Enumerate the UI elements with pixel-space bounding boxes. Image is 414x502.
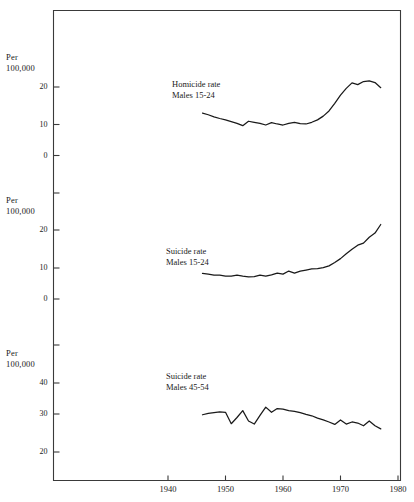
text-line: Suicide rate xyxy=(166,371,209,382)
series-annotation-suicide-males-15-24: Suicide rateMales 15-24 xyxy=(166,246,209,268)
text-line: Males 15-24 xyxy=(166,257,209,268)
y-tick-label: 30 xyxy=(24,409,48,418)
text-line: 100,000 xyxy=(6,63,35,74)
y-tick-label: 10 xyxy=(24,263,48,272)
x-tick-label: 1950 xyxy=(206,484,246,494)
y-tick-label: 0 xyxy=(24,151,48,160)
series-annotation-suicide-males-45-54: Suicide rateMales 45-54 xyxy=(166,371,209,393)
x-tick-label: 1970 xyxy=(321,484,361,494)
series-group xyxy=(203,81,381,429)
x-tick-label: 1940 xyxy=(148,484,188,494)
text-line: 100,000 xyxy=(6,359,35,370)
y-tick-label: 0 xyxy=(24,294,48,303)
text-line: 100,000 xyxy=(6,206,35,217)
axes-group xyxy=(54,11,401,481)
y-tick-label: 10 xyxy=(24,120,48,129)
figure-root: Per100,000 Per100,000 Per100,000 Homicid… xyxy=(0,0,414,502)
y-axis-unit-label-panel-1: Per100,000 xyxy=(6,52,35,73)
text-line: Males 45-54 xyxy=(166,382,209,393)
y-axis-unit-label-panel-3: Per100,000 xyxy=(6,348,35,369)
text-line: Per xyxy=(6,52,35,63)
y-tick-label: 20 xyxy=(24,447,48,456)
text-line: Suicide rate xyxy=(166,246,209,257)
text-line: Per xyxy=(6,195,35,206)
series-annotation-homicide-males-15-24: Homicide rateMales 15-24 xyxy=(172,79,220,101)
y-tick-label: 20 xyxy=(24,82,48,91)
text-line: Homicide rate xyxy=(172,79,220,90)
text-line: Males 15-24 xyxy=(172,90,220,101)
data-series-line xyxy=(203,81,381,126)
x-tick-label: 1960 xyxy=(263,484,303,494)
x-tick-label: 1980 xyxy=(378,484,414,494)
text-line: Per xyxy=(6,348,35,359)
data-series-line xyxy=(203,224,381,276)
y-tick-label: 20 xyxy=(24,225,48,234)
plot-frame xyxy=(54,11,401,481)
y-axis-unit-label-panel-2: Per100,000 xyxy=(6,195,35,216)
y-tick-label: 40 xyxy=(24,378,48,387)
data-series-line xyxy=(203,407,381,429)
